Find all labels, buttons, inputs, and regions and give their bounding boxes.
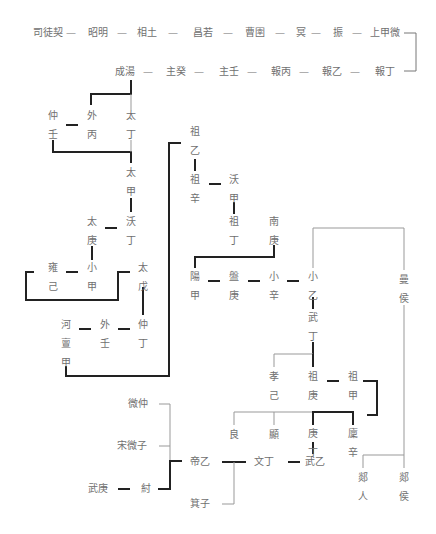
node-baoding: 報丁 [375,66,395,78]
node-yangjia: 陽甲 [189,267,201,305]
separator: — [350,66,360,78]
node-jizi: 箕子 [190,498,210,510]
separator: — [194,66,204,78]
node-zhaoming: 昭明 [88,27,108,39]
node-xiaoji: 孝己 [268,367,280,405]
node-nangeng: 南庚 [268,212,280,250]
node-wuding: 武丁 [307,308,319,346]
node-zhen: 振 [333,27,343,39]
separator: — [299,66,309,78]
node-zhongren: 仲壬 [47,106,59,144]
node-xiangtu: 相土 [137,27,157,39]
node-songweizi: 宋微子 [117,440,147,452]
node-wending: 文丁 [254,456,274,468]
node-hedanjia: 河亶甲 [60,315,72,372]
node-taijia: 太甲 [125,163,137,201]
node-xiaoyi: 小乙 [307,267,319,305]
node-wojia: 沃甲 [228,170,240,208]
node-wuyi: 武乙 [305,456,325,468]
node-tanhou: 郯侯 [398,468,410,506]
node-wairen: 外壬 [99,315,111,353]
node-tanren: 郯人 [357,468,369,506]
separator: — [275,27,285,39]
node-taiwu: 太戊 [137,258,149,296]
node-yongji: 雍己 [47,258,59,296]
node-shangjiawei: 上甲微 [370,27,400,39]
separator: — [117,27,127,39]
node-pangeng: 盤庚 [228,267,240,305]
node-zuyi: 祖乙 [189,122,201,160]
node-xiaoxin: 小辛 [268,267,280,305]
node-zuding: 祖丁 [228,212,240,250]
node-zhugui: 主癸 [166,66,186,78]
node-woding: 沃丁 [125,212,137,250]
node-weizhong: 微仲 [128,398,148,410]
node-zhou: 紂 [141,483,151,495]
node-changruo: 昌若 [193,27,213,39]
node-xian: 顯 [268,425,280,444]
node-zujia: 祖甲 [347,367,359,405]
node-linxin: 廩辛 [347,424,359,462]
node-chengtang: 成湯 [115,66,135,78]
separator: — [168,27,178,39]
separator: — [311,27,321,39]
separator: — [247,66,257,78]
node-zuxin: 祖辛 [189,170,201,208]
node-diyi: 帝乙 [190,456,210,468]
connector-lines [0,0,436,534]
node-wugeng: 武庚 [88,483,108,495]
node-manhou: 曼侯 [398,270,410,308]
node-liang: 良 [228,425,240,444]
node-waibing: 外丙 [86,106,98,144]
node-taiding: 太丁 [125,106,137,144]
node-baoyi: 報乙 [322,66,342,78]
node-taigeng: 太庚 [86,212,98,250]
node-zugeng: 祖庚 [307,367,319,405]
separator: — [223,27,233,39]
node-caoyu: 曹圉 [245,27,265,39]
node-ming: 冥 [296,27,306,39]
node-xiaojia: 小甲 [86,258,98,296]
node-zhuren: 主壬 [219,66,239,78]
separator: — [143,66,153,78]
node-zhongding: 仲丁 [137,315,149,353]
separator: — [66,27,76,39]
separator: — [352,27,362,39]
node-baobing: 報丙 [271,66,291,78]
node-situxie: 司徒契 [33,27,63,39]
